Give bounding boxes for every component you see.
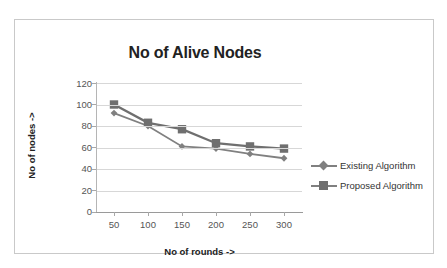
- x-axis-title: No of rounds ->: [97, 246, 302, 257]
- legend-item-proposed[interactable]: Proposed Algorithm: [311, 175, 443, 195]
- chart-legend: Existing Algorithm Proposed Algorithm: [311, 155, 443, 195]
- x-tick-label-300: 300: [264, 219, 304, 230]
- gridline-100: [97, 105, 302, 106]
- x-axis-line: [96, 212, 303, 213]
- data-point-existing: [111, 110, 118, 117]
- legend-item-existing[interactable]: Existing Algorithm: [311, 155, 443, 175]
- y-tick-label-40: 40: [58, 163, 92, 174]
- x-tick-mark-150: [182, 212, 183, 216]
- plot-area: [97, 83, 302, 212]
- gridline-120: [97, 83, 302, 84]
- x-tick-mark-50: [114, 212, 115, 216]
- x-tick-mark-300: [284, 212, 285, 216]
- legend-label-existing: Existing Algorithm: [337, 160, 416, 171]
- gridline-40: [97, 169, 302, 170]
- x-tick-mark-100: [148, 212, 149, 216]
- gridline-80: [97, 126, 302, 127]
- y-axis-tick-labels: 120 100 80 60 40 20 0: [56, 20, 92, 268]
- x-tick-mark-250: [250, 212, 251, 216]
- y-axis-title: No of nodes ->: [26, 96, 37, 196]
- gridline-60: [97, 148, 302, 149]
- chart-frame: No of Alive Nodes 120 100 80 60 40 20 0: [14, 19, 434, 254]
- y-tick-label-60: 60: [58, 142, 92, 153]
- y-tick-label-0: 0: [58, 206, 92, 217]
- data-point-proposed: [246, 142, 254, 150]
- y-tick-label-120: 120: [58, 78, 92, 89]
- legend-label-proposed: Proposed Algorithm: [337, 180, 423, 191]
- legend-marker-square-icon: [311, 179, 337, 191]
- data-point-existing: [247, 151, 254, 158]
- data-point-proposed: [212, 139, 220, 147]
- gridline-20: [97, 191, 302, 192]
- legend-marker-diamond-icon: [311, 159, 337, 171]
- y-tick-label-80: 80: [58, 120, 92, 131]
- y-tick-label-100: 100: [58, 99, 92, 110]
- y-tick-label-20: 20: [58, 185, 92, 196]
- data-point-existing: [281, 155, 288, 162]
- data-point-proposed: [280, 144, 288, 152]
- x-tick-mark-200: [216, 212, 217, 216]
